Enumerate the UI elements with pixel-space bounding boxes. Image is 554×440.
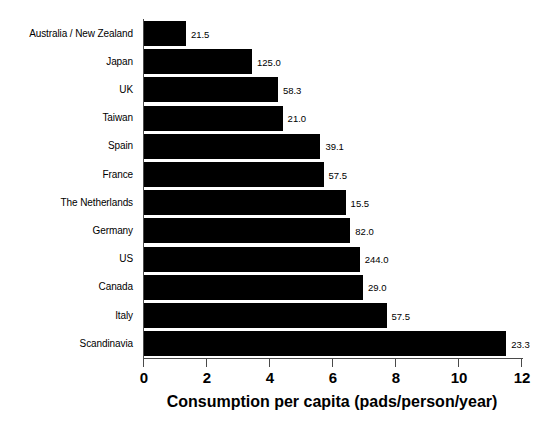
bar (144, 331, 506, 356)
bar (144, 49, 252, 74)
category-label: Australia / New Zealand (0, 28, 138, 40)
bar-value-label: 82.0 (355, 226, 374, 237)
category-label: Italy (0, 310, 138, 322)
x-tick-label: 2 (203, 369, 211, 386)
bar (144, 247, 360, 272)
bar-value-label: 125.0 (257, 57, 281, 68)
bar (144, 303, 387, 328)
category-label: US (0, 253, 138, 265)
x-tick-label: 12 (514, 369, 531, 386)
bar (144, 77, 278, 102)
bar-value-label: 244.0 (365, 254, 389, 265)
bar (144, 106, 283, 131)
x-tick-label: 10 (451, 369, 468, 386)
x-tick-label: 0 (140, 369, 148, 386)
bar-value-label: 29.0 (368, 282, 387, 293)
bar-value-label: 21.5 (191, 29, 210, 40)
bar-chart: Australia / New ZealandJapanUKTaiwanSpai… (0, 0, 554, 440)
category-label: Germany (0, 225, 138, 237)
category-label: Taiwan (0, 112, 138, 124)
bar-value-label: 39.1 (325, 141, 344, 152)
x-axis-title: Consumption per capita (pads/person/year… (0, 392, 554, 411)
bar (144, 162, 324, 187)
bar-value-label: 15.5 (351, 198, 370, 209)
category-label: UK (0, 84, 138, 96)
bar-value-label: 21.0 (288, 113, 307, 124)
bar (144, 218, 350, 243)
x-tick (206, 358, 207, 367)
x-tick-label: 4 (266, 369, 274, 386)
y-axis-line (143, 19, 144, 359)
category-label: Japan (0, 56, 138, 68)
bar (144, 275, 363, 300)
category-label: The Netherlands (0, 197, 138, 209)
bar-value-label: 58.3 (283, 85, 302, 96)
category-label: Scandinavia (0, 338, 138, 350)
bar-value-label: 57.5 (392, 311, 411, 322)
x-tick (395, 358, 396, 367)
category-label: Spain (0, 140, 138, 152)
x-tick-label: 6 (329, 369, 337, 386)
x-tick-label: 8 (392, 369, 400, 386)
x-tick (269, 358, 270, 367)
x-tick (521, 358, 522, 367)
bar-value-label: 23.3 (511, 339, 530, 350)
bar (144, 21, 186, 46)
category-label: France (0, 169, 138, 181)
bar-value-label: 57.5 (329, 170, 348, 181)
category-axis-labels: Australia / New ZealandJapanUKTaiwanSpai… (0, 20, 138, 358)
bar (144, 134, 320, 159)
x-tick (143, 358, 144, 367)
bar (144, 190, 346, 215)
x-tick (332, 358, 333, 367)
x-axis-line (143, 358, 523, 359)
plot-area: 21.5125.058.321.039.157.515.582.0244.029… (144, 20, 522, 358)
x-tick (458, 358, 459, 367)
category-label: Canada (0, 281, 138, 293)
